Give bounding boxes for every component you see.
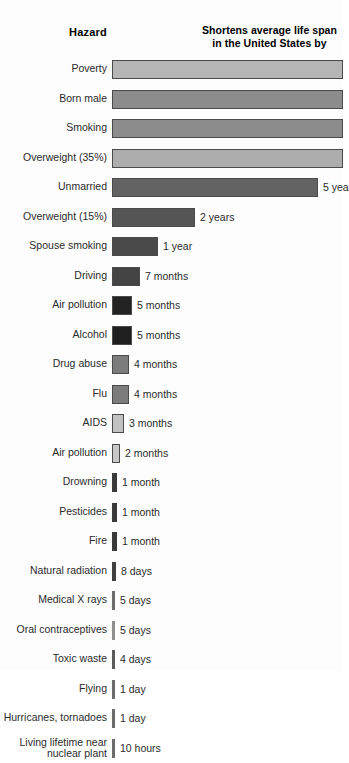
bar-value-label: 5 days xyxy=(120,624,151,636)
row-label: Air pollution xyxy=(0,299,107,311)
row-label: Flu xyxy=(0,388,107,400)
row-label: Alcohol xyxy=(0,329,107,341)
row-label: Poverty xyxy=(0,63,107,75)
bar-value-label: 1 day xyxy=(120,712,146,724)
chart-row: Living lifetime near nuclear plant10 hou… xyxy=(0,735,343,763)
row-label: Pesticides xyxy=(0,506,107,518)
row-label: Toxic waste xyxy=(0,653,107,665)
bar xyxy=(112,591,115,610)
chart-row: Pesticides1 month xyxy=(0,499,343,529)
bar-area xyxy=(112,145,343,175)
chart-row: Flu4 months xyxy=(0,381,343,411)
bar xyxy=(112,621,115,640)
row-label: Hurricanes, tornadoes xyxy=(0,712,107,724)
chart-row: Overweight (35%) xyxy=(0,145,343,175)
chart-row: Born male xyxy=(0,86,343,116)
bar xyxy=(112,326,132,345)
bar xyxy=(112,355,129,374)
bar-area: 7 months xyxy=(112,263,343,293)
bar xyxy=(112,296,132,315)
bar xyxy=(112,650,115,669)
bar-area xyxy=(112,86,343,116)
row-label: Smoking xyxy=(0,122,107,134)
bar-area: 2 years xyxy=(112,204,343,234)
row-label: Natural radiation xyxy=(0,565,107,577)
bar xyxy=(112,473,117,492)
bar xyxy=(112,149,343,168)
bar xyxy=(112,444,120,463)
chart-row: Overweight (15%)2 years xyxy=(0,204,343,234)
row-label: Driving xyxy=(0,270,107,282)
bar-value-label: 10 hours xyxy=(120,742,161,754)
bar-value-label: 2 years xyxy=(200,211,234,223)
chart-row: Driving7 months xyxy=(0,263,343,293)
chart-row: Medical X rays5 days xyxy=(0,587,343,617)
bar-value-label: 1 month xyxy=(122,535,160,547)
row-label: Fire xyxy=(0,535,107,547)
bar-area: 5 months xyxy=(112,322,343,352)
bar-area: 4 months xyxy=(112,381,343,411)
row-label: Unmarried xyxy=(0,181,107,193)
bar-value-label: 1 month xyxy=(122,476,160,488)
row-label: Overweight (35%) xyxy=(0,152,107,164)
bar-area: 5 months xyxy=(112,292,343,322)
bar-value-label: 1 year xyxy=(163,240,192,252)
bar-area: 8 days xyxy=(112,558,343,588)
bar xyxy=(112,709,115,728)
row-label: Flying xyxy=(0,683,107,695)
bar-area: 4 days xyxy=(112,646,343,676)
chart-row: Spouse smoking1 year xyxy=(0,233,343,263)
bar-area: 4 months xyxy=(112,351,343,381)
row-label: Drug abuse xyxy=(0,358,107,370)
bar-value-label: 5 months xyxy=(137,299,180,311)
bar-area: 1 day xyxy=(112,676,343,706)
column-header-lifespan-line1: Shortens average life span xyxy=(196,24,343,37)
bar-area: 1 month xyxy=(112,528,343,558)
chart-row: Smoking xyxy=(0,115,343,145)
chart-row: AIDS3 months xyxy=(0,410,343,440)
bar-value-label: 2 months xyxy=(125,447,168,459)
chart-rows: PovertyBorn maleSmokingOverweight (35%)U… xyxy=(0,56,343,763)
row-label: Oral contraceptives xyxy=(0,624,107,636)
bar-value-label: 1 month xyxy=(122,506,160,518)
chart-row: Fire1 month xyxy=(0,528,343,558)
bar-area: 10 hours xyxy=(112,735,343,763)
bar xyxy=(112,267,140,286)
bar-area: 5 days xyxy=(112,587,343,617)
bar xyxy=(112,414,124,433)
bar-area xyxy=(112,56,343,86)
chart-row: Toxic waste4 days xyxy=(0,646,343,676)
bar xyxy=(112,60,343,79)
chart-row: Unmarried5 yea xyxy=(0,174,343,204)
bar-area: 3 months xyxy=(112,410,343,440)
chart-row: Natural radiation8 days xyxy=(0,558,343,588)
bar-area: 5 days xyxy=(112,617,343,647)
chart-row: Poverty xyxy=(0,56,343,86)
bar-value-label: 5 days xyxy=(120,594,151,606)
chart-row: Air pollution5 months xyxy=(0,292,343,322)
bar xyxy=(112,90,343,109)
row-label: AIDS xyxy=(0,417,107,429)
bar xyxy=(112,503,117,522)
bar-area: 1 month xyxy=(112,469,343,499)
row-label: Spouse smoking xyxy=(0,240,107,252)
bar-value-label: 1 day xyxy=(120,683,146,695)
bar xyxy=(112,562,116,581)
row-label: Living lifetime near nuclear plant xyxy=(0,737,107,760)
bar-value-label: 8 days xyxy=(121,565,152,577)
chart-header: Hazard Shortens average life span in the… xyxy=(0,0,343,56)
chart-row: Drowning1 month xyxy=(0,469,343,499)
chart-row: Air pollution2 months xyxy=(0,440,343,470)
bar-value-label: 4 days xyxy=(120,653,151,665)
chart-row: Oral contraceptives5 days xyxy=(0,617,343,647)
bar xyxy=(112,532,117,551)
bar xyxy=(112,739,115,758)
column-header-lifespan-line2: in the United States by xyxy=(196,37,343,50)
row-label: Air pollution xyxy=(0,447,107,459)
bar xyxy=(112,208,195,227)
bar xyxy=(112,237,158,256)
bar-value-label: 3 months xyxy=(129,417,172,429)
chart-row: Flying1 day xyxy=(0,676,343,706)
bar xyxy=(112,178,318,197)
